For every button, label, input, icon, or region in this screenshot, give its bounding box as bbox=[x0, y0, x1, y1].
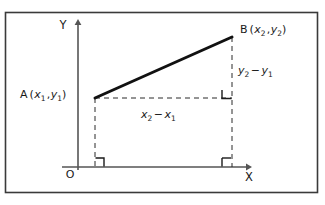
coordinate-geometry-diagram: Y X O A(x1,y1) B(x2,y2) x2−x1 y2−y1 bbox=[0, 0, 325, 205]
vert-sub-a: 2 bbox=[245, 70, 250, 79]
horizontal-difference-text: x2−x1 bbox=[140, 108, 176, 123]
point-b-paren-open: ( bbox=[250, 23, 254, 36]
vertical-difference-label: y2−y1 bbox=[237, 64, 273, 79]
point-a-paren-close: ) bbox=[62, 88, 66, 101]
horizontal-difference-label: x2−x1 bbox=[140, 108, 176, 123]
figure-border bbox=[6, 13, 318, 193]
vertical-difference-text: y2−y1 bbox=[237, 64, 273, 79]
point-a-name: A bbox=[20, 88, 28, 101]
horiz-sub-b: 1 bbox=[171, 114, 176, 123]
figure-container: Y X O A(x1,y1) B(x2,y2) x2−x1 y2−y1 bbox=[0, 0, 325, 205]
point-b-paren-close: ) bbox=[282, 23, 286, 36]
point-a-paren-open: ( bbox=[30, 88, 34, 101]
horiz-sub-a: 2 bbox=[148, 114, 153, 123]
point-b-sub-x: 2 bbox=[261, 29, 266, 38]
point-b-name: B bbox=[240, 23, 248, 36]
point-a-sub-x: 1 bbox=[41, 94, 46, 103]
x-axis-label: X bbox=[245, 170, 253, 184]
horiz-minus: − bbox=[154, 108, 163, 121]
vert-minus: − bbox=[251, 64, 260, 77]
point-b-comma: , bbox=[267, 23, 271, 36]
y-axis-label: Y bbox=[58, 18, 67, 32]
origin-label: O bbox=[66, 168, 75, 181]
vert-sub-b: 1 bbox=[268, 70, 273, 79]
point-a-comma: , bbox=[47, 88, 51, 101]
